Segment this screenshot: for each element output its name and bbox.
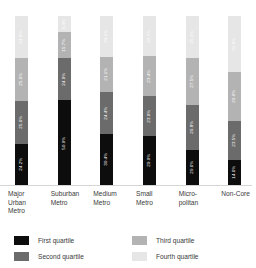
bar-slot: 23.7%23.4%23.9%29.0%: [128, 16, 171, 185]
bar-segment[interactable]: 21.1%: [100, 57, 113, 93]
bar-segment[interactable]: 26.8%: [186, 105, 199, 150]
bar-segment[interactable]: 27.5%: [186, 58, 199, 104]
bar-slot: 9.4%15.7%24.9%50.0%: [43, 16, 86, 185]
bar-segment-value: 27.5%: [190, 75, 194, 88]
bar-segment-value: 29.0%: [147, 154, 151, 167]
bar-slot: 32.9%29.0%23.5%14.6%: [213, 16, 256, 185]
bar-segment-value: 20.6%: [190, 161, 194, 174]
bar-segment-value: 24.4%: [104, 107, 108, 120]
x-axis-label-line: politan: [179, 199, 214, 208]
legend-swatch: [14, 236, 29, 245]
x-axis-label-line: Major: [8, 190, 43, 199]
bar-segment[interactable]: 29.0%: [228, 72, 241, 121]
bar-segment[interactable]: 24.2%: [15, 144, 28, 185]
x-axis-label: Micro-politan: [171, 190, 214, 216]
x-axis-label-line: Small: [136, 190, 171, 199]
bar-segment[interactable]: 23.7%: [143, 16, 156, 56]
bar-segment-value: 25.6%: [19, 73, 23, 86]
bar-segment[interactable]: 25.1%: [186, 16, 199, 58]
legend-label: Third quartile: [156, 237, 194, 244]
bar-segment[interactable]: 15.7%: [58, 32, 71, 59]
bar-segment[interactable]: 24.4%: [100, 92, 113, 133]
bar-segment-value: 23.7%: [147, 30, 151, 43]
x-axis-label-line: Suburban: [51, 190, 86, 199]
bar-segment[interactable]: 24.6%: [15, 16, 28, 58]
x-axis-label: Non-Core: [213, 190, 256, 216]
x-axis-line: [0, 185, 252, 186]
bar-segment-value: 21.1%: [104, 68, 108, 81]
bar-segment[interactable]: 9.4%: [58, 16, 71, 32]
x-axis-label-line: Metro: [136, 199, 171, 208]
bar-segment[interactable]: 30.4%: [100, 134, 113, 185]
stacked-bar[interactable]: 24.6%25.6%25.6%24.2%: [15, 16, 28, 185]
x-axis-label: SuburbanMetro: [43, 190, 86, 216]
bar-segment[interactable]: 25.6%: [15, 58, 28, 101]
legend-item[interactable]: Third quartile: [132, 232, 244, 248]
bar-segment[interactable]: 32.9%: [228, 16, 241, 72]
x-axis-label-line: Metro: [51, 199, 86, 208]
legend-item[interactable]: Fourth quartile: [132, 248, 244, 264]
x-axis-label-line: Metro: [8, 207, 43, 216]
x-axis-label-line: Non-Core: [221, 190, 256, 199]
bar-slot: 25.1%27.5%26.8%20.6%: [171, 16, 214, 185]
plot-area: 24.6%25.6%25.6%24.2%9.4%15.7%24.9%50.0%2…: [0, 16, 256, 185]
stacked-bar[interactable]: 24.1%21.1%24.4%30.4%: [100, 16, 113, 185]
stacked-bar[interactable]: 25.1%27.5%26.8%20.6%: [186, 16, 199, 185]
x-axis-label: MajorUrbanMetro: [0, 190, 43, 216]
stacked-bar[interactable]: 9.4%15.7%24.9%50.0%: [58, 16, 71, 185]
legend-swatch: [132, 236, 147, 245]
bar-segment-value: 24.1%: [104, 30, 108, 43]
x-axis-label-line: Micro-: [179, 190, 214, 199]
bar-segment[interactable]: 23.9%: [143, 96, 156, 136]
bar-segment[interactable]: 14.6%: [228, 160, 241, 185]
x-axis-label: SmallMetro: [128, 190, 171, 216]
legend-swatch: [132, 252, 147, 261]
bar-segment-value: 25.1%: [190, 31, 194, 44]
bar-segment-value: 24.6%: [19, 30, 23, 43]
chart-legend: First quartileThird quartileSecond quart…: [14, 232, 244, 264]
legend-item[interactable]: Second quartile: [14, 248, 126, 264]
stacked-bar[interactable]: 23.7%23.4%23.9%29.0%: [143, 16, 156, 185]
bar-segment[interactable]: 29.0%: [143, 136, 156, 185]
bar-segment-value: 23.9%: [147, 109, 151, 122]
bar-segment-value: 26.8%: [190, 121, 194, 134]
bar-segment-value: 24.2%: [19, 158, 23, 171]
x-axis-labels: MajorUrbanMetroSuburbanMetroMediumMetroS…: [0, 190, 256, 216]
bar-segment-value: 23.5%: [232, 134, 236, 147]
legend-label: Fourth quartile: [156, 253, 199, 260]
bar-segment[interactable]: 23.5%: [228, 121, 241, 161]
stacked-bar-chart: 24.6%25.6%25.6%24.2%9.4%15.7%24.9%50.0%2…: [0, 0, 256, 268]
bar-segment-value: 14.6%: [232, 166, 236, 179]
bar-segment-value: 30.4%: [104, 153, 108, 166]
x-axis-label: MediumMetro: [85, 190, 128, 216]
x-axis-label-line: Urban: [8, 199, 43, 208]
bar-segment[interactable]: 50.0%: [58, 100, 71, 185]
bar-group: 24.6%25.6%25.6%24.2%9.4%15.7%24.9%50.0%2…: [0, 16, 256, 185]
stacked-bar[interactable]: 32.9%29.0%23.5%14.6%: [228, 16, 241, 185]
bar-segment[interactable]: 24.1%: [100, 16, 113, 57]
bar-segment[interactable]: 20.6%: [186, 150, 199, 185]
legend-label: Second quartile: [38, 253, 84, 260]
bar-segment-value: 23.4%: [147, 69, 151, 82]
bar-segment-value: 24.9%: [62, 73, 66, 86]
bar-segment[interactable]: 24.9%: [58, 58, 71, 100]
legend-swatch: [14, 252, 29, 261]
bar-segment-value: 25.6%: [19, 116, 23, 129]
bar-segment[interactable]: 23.4%: [143, 56, 156, 96]
bar-segment-value: 15.7%: [62, 39, 66, 52]
legend-item[interactable]: First quartile: [14, 232, 126, 248]
x-axis-label-line: Metro: [93, 199, 128, 208]
bar-segment-value: 50.0%: [62, 136, 66, 149]
bar-segment-value: 9.4%: [62, 19, 66, 29]
bar-segment-value: 32.9%: [232, 37, 236, 50]
bar-segment[interactable]: 25.6%: [15, 101, 28, 144]
legend-label: First quartile: [38, 237, 74, 244]
x-axis-label-line: Medium: [93, 190, 128, 199]
bar-segment-value: 29.0%: [232, 90, 236, 103]
bar-slot: 24.6%25.6%25.6%24.2%: [0, 16, 43, 185]
bar-slot: 24.1%21.1%24.4%30.4%: [85, 16, 128, 185]
